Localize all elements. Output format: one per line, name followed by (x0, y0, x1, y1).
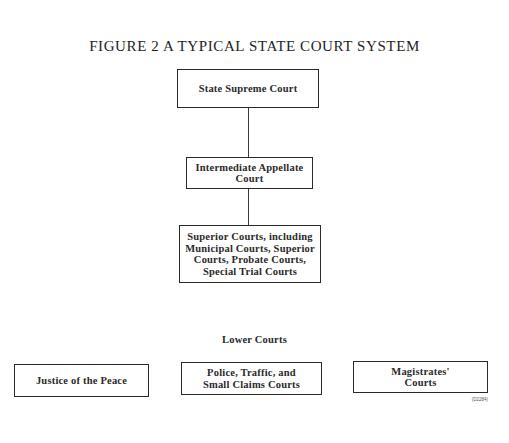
magistrates-courts-box: Magistrates' Courts (353, 361, 488, 393)
justice-of-the-peace-label: Justice of the Peace (36, 375, 127, 387)
police-traffic-small-claims-label: Police, Traffic, and Small Claims Courts (203, 367, 300, 390)
magistrates-courts-label: Magistrates' Courts (391, 366, 449, 389)
connector-appellate-to-superior (248, 189, 249, 225)
police-traffic-small-claims-box: Police, Traffic, and Small Claims Courts (181, 362, 322, 395)
connector-supreme-to-appellate (248, 108, 249, 157)
figure-id-label: (D2284) (472, 397, 488, 402)
figure-title: FIGURE 2 A TYPICAL STATE COURT SYSTEM (0, 38, 509, 55)
superior-courts-box: Superior Courts, including Municipal Cou… (179, 225, 321, 283)
justice-of-the-peace-box: Justice of the Peace (14, 364, 149, 397)
state-supreme-court-label: State Supreme Court (199, 83, 298, 95)
superior-courts-label: Superior Courts, including Municipal Cou… (185, 231, 315, 277)
lower-courts-heading: Lower Courts (0, 334, 509, 345)
intermediate-appellate-court-label: Intermediate Appellate Court (196, 162, 304, 185)
intermediate-appellate-court-box: Intermediate Appellate Court (186, 157, 313, 189)
state-supreme-court-box: State Supreme Court (177, 69, 319, 108)
